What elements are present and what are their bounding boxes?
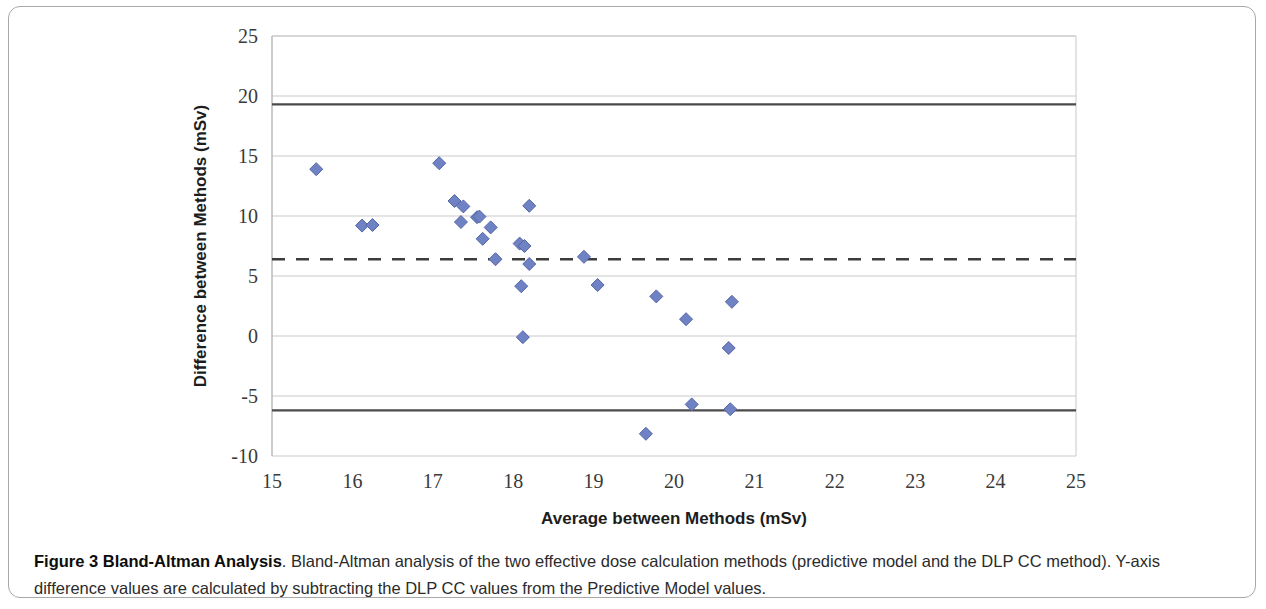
data-point-marker <box>724 403 737 416</box>
x-tick-label: 23 <box>905 470 925 492</box>
data-points-group <box>310 157 739 441</box>
x-tick-label: 20 <box>664 470 684 492</box>
data-point-marker <box>577 250 590 263</box>
x-tick-label: 21 <box>744 470 764 492</box>
data-point-marker <box>433 157 446 170</box>
data-point-marker <box>725 295 738 308</box>
chart-svg: -10-50510152025 1516171819202122232425 D… <box>0 0 1266 540</box>
y-axis-tick-labels: -10-50510152025 <box>231 25 258 467</box>
reference-lines-group <box>272 104 1076 410</box>
data-point-marker <box>650 290 663 303</box>
bland-altman-chart: -10-50510152025 1516171819202122232425 D… <box>0 0 1266 540</box>
data-point-marker <box>489 253 502 266</box>
data-point-marker <box>523 199 536 212</box>
data-point-marker <box>591 279 604 292</box>
caption-lead: Figure 3 Bland-Altman Analysis <box>34 552 282 570</box>
x-tick-label: 24 <box>986 470 1006 492</box>
data-point-marker <box>515 280 528 293</box>
y-tick-label: 5 <box>248 265 258 287</box>
data-point-marker <box>366 219 379 232</box>
x-tick-label: 17 <box>423 470 443 492</box>
x-tick-label: 25 <box>1066 470 1086 492</box>
x-axis-tick-labels: 1516171819202122232425 <box>262 470 1086 492</box>
x-axis-title: Average between Methods (mSv) <box>541 509 807 528</box>
gridlines-group <box>272 36 1076 456</box>
x-tick-label: 22 <box>825 470 845 492</box>
y-tick-label: -5 <box>241 385 258 407</box>
data-point-marker <box>476 232 489 245</box>
data-point-marker <box>722 342 735 355</box>
y-tick-label: 20 <box>238 85 258 107</box>
data-point-marker <box>454 216 467 229</box>
y-tick-label: 15 <box>238 145 258 167</box>
data-point-marker <box>639 427 652 440</box>
y-tick-label: 10 <box>238 205 258 227</box>
data-point-marker <box>685 398 698 411</box>
y-tick-label: 0 <box>248 325 258 347</box>
x-tick-label: 18 <box>503 470 523 492</box>
y-tick-label: -10 <box>231 445 258 467</box>
data-point-marker <box>484 221 497 234</box>
y-axis-title: Difference between Methods (mSv) <box>191 105 210 387</box>
data-point-marker <box>516 331 529 344</box>
x-tick-label: 19 <box>584 470 604 492</box>
plot-frame <box>272 36 1076 456</box>
x-tick-label: 15 <box>262 470 282 492</box>
figure-caption: Figure 3 Bland-Altman Analysis. Bland-Al… <box>34 548 1234 601</box>
x-tick-label: 16 <box>342 470 362 492</box>
data-point-marker <box>680 313 693 326</box>
y-tick-label: 25 <box>238 25 258 47</box>
data-point-marker <box>310 163 323 176</box>
